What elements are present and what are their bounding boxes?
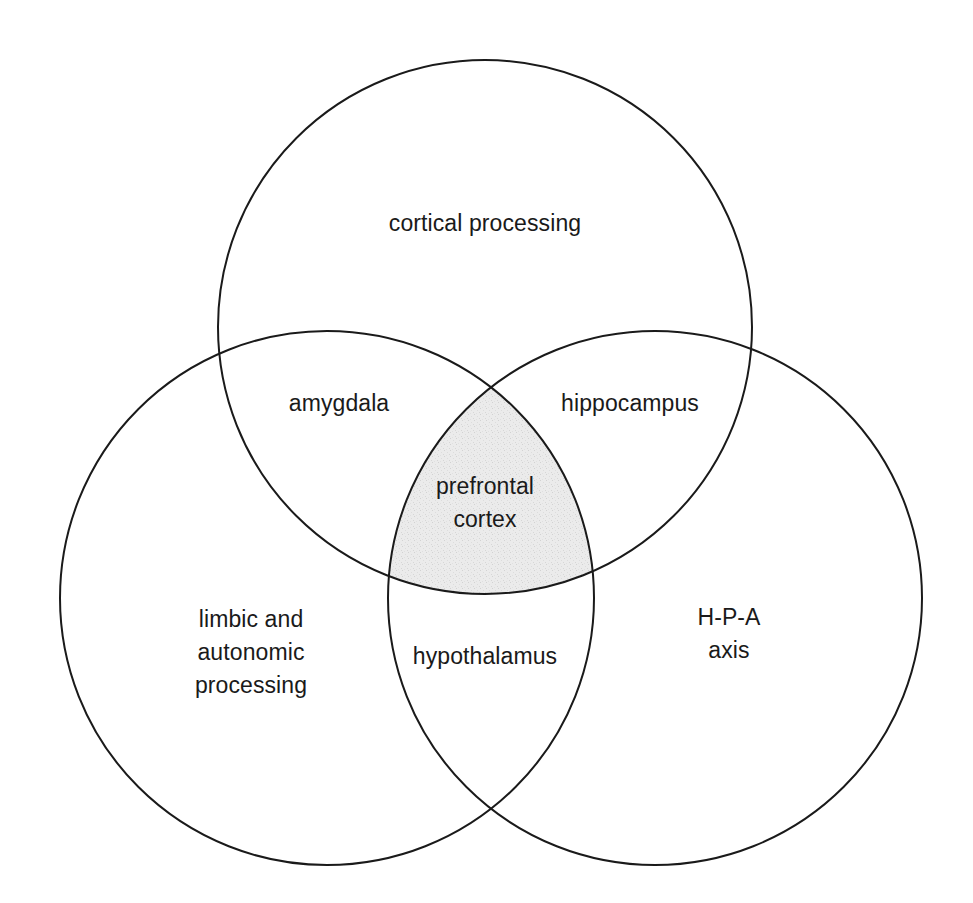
triple-intersection-region [0, 0, 973, 903]
region-label-hypothalamus: hypothalamus [413, 641, 557, 672]
region-label-prefrontal-cortex: prefrontal cortex [436, 470, 534, 536]
region-label-limbic-autonomic-processing: limbic and autonomic processing [195, 603, 307, 702]
region-label-hippocampus: hippocampus [561, 388, 699, 419]
venn-diagram: cortical processing limbic and autonomic… [0, 0, 973, 903]
region-label-amygdala: amygdala [289, 388, 390, 419]
region-label-cortical-processing: cortical processing [389, 208, 581, 239]
venn-circles-svg [0, 0, 973, 903]
region-label-hpa-axis: H-P-A axis [697, 601, 760, 667]
